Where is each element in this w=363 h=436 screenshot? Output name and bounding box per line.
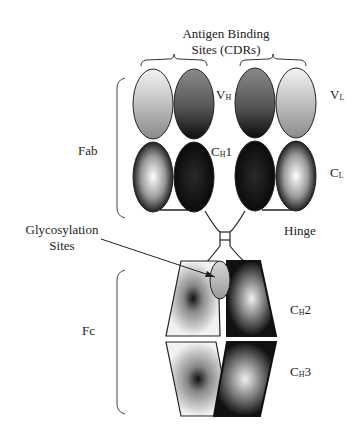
cl-domain-left — [133, 142, 173, 212]
antigen-binding-label: Antigen Binding Sites (CDRs) — [176, 26, 276, 58]
vh-light-domain-left — [133, 69, 173, 139]
glycosylation-site — [210, 261, 230, 299]
ch3-domain-right — [214, 342, 276, 416]
hinge — [205, 211, 245, 262]
ch3-label: CH3 — [290, 364, 311, 383]
glyco-line2: Sites — [14, 238, 110, 254]
ch1-label: CH1 — [211, 144, 232, 163]
vh-heavy-domain-right — [235, 68, 275, 138]
antigen-binding-line1: Antigen Binding — [176, 26, 276, 42]
glyco-line1: Glycosylation — [14, 222, 110, 238]
hinge-label: Hinge — [284, 223, 316, 239]
fab-label: Fab — [78, 143, 98, 159]
cl-domain-right — [276, 141, 316, 211]
ch1-domain-right — [235, 141, 275, 211]
glycosylation-pointer — [101, 239, 215, 277]
ch2-label: CH2 — [290, 302, 311, 321]
vh-heavy-domain-left — [174, 69, 214, 139]
vl-light-domain-right — [276, 68, 316, 138]
vl-label: VL — [330, 87, 344, 106]
fc-label: Fc — [82, 323, 95, 339]
ch1-domain-left — [174, 142, 214, 212]
vh-label: VH — [216, 87, 231, 106]
ch2-domain-right — [227, 261, 276, 336]
glycosylation-label: Glycosylation Sites — [14, 222, 110, 254]
fc-bracket — [117, 270, 125, 414]
antigen-binding-line2: Sites (CDRs) — [176, 42, 276, 58]
fab-bracket — [117, 78, 125, 218]
cl-label: CL — [330, 165, 344, 184]
